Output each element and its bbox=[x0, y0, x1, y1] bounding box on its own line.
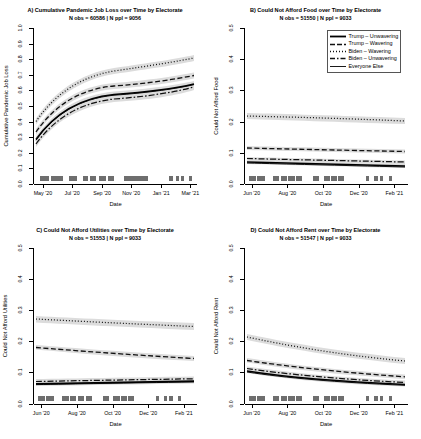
x-tick-label: Jul '20 bbox=[64, 190, 79, 196]
y-tick-mark bbox=[240, 248, 244, 249]
rug-mark bbox=[296, 396, 302, 401]
x-tick-mark bbox=[72, 185, 73, 188]
panel-c-y-tick-labels: 0.00.10.20.30.40.5 bbox=[0, 220, 34, 439]
x-tick-label: Oct '20 bbox=[104, 410, 121, 416]
figure-panel-grid: A) Cumulative Pandemic Job Loss over Tim… bbox=[0, 0, 421, 439]
rug-mark bbox=[169, 176, 172, 181]
y-tick-mark bbox=[240, 310, 244, 311]
band-d-biden-wavering bbox=[247, 334, 405, 364]
rug-mark bbox=[324, 176, 330, 181]
x-tick-label: Jun '20 bbox=[243, 410, 260, 416]
y-tick-label: 0.1 bbox=[12, 369, 28, 375]
legend-item-label: Biden – Wavering bbox=[349, 48, 391, 55]
panel-a-x-axis-line bbox=[34, 184, 197, 185]
rug-mark bbox=[374, 176, 378, 181]
x-tick-mark bbox=[323, 185, 324, 188]
legend-item-label: Trump – Unwavering bbox=[349, 33, 399, 40]
y-tick-label: 0.1 bbox=[223, 150, 239, 156]
rug-mark bbox=[90, 176, 96, 181]
y-tick-label: 0.3 bbox=[223, 87, 239, 93]
panel-a-x-axis-title: Date bbox=[34, 201, 197, 207]
y-tick-mark bbox=[240, 404, 244, 405]
y-tick-mark bbox=[29, 248, 33, 249]
y-tick-mark bbox=[29, 279, 33, 280]
rug-mark bbox=[46, 396, 54, 401]
y-tick-label: 0.5 bbox=[12, 103, 28, 109]
y-tick-mark bbox=[240, 59, 244, 60]
rug-mark bbox=[164, 396, 168, 401]
x-tick-mark bbox=[161, 185, 162, 188]
panel-a-y-tick-labels: 0.00.10.20.30.40.50.60.70.80.91.0 bbox=[0, 0, 34, 219]
x-tick-mark bbox=[323, 405, 324, 408]
rug-mark bbox=[389, 396, 392, 401]
y-tick-mark bbox=[29, 341, 33, 342]
x-tick-label: Aug '20 bbox=[68, 410, 86, 416]
x-tick-label: Feb '21 bbox=[386, 410, 404, 416]
y-tick-label: 0.3 bbox=[12, 134, 28, 140]
x-tick-mark bbox=[359, 405, 360, 408]
y-tick-label: 0.2 bbox=[12, 150, 28, 156]
x-tick-label: Oct '20 bbox=[315, 190, 332, 196]
y-tick-mark bbox=[240, 122, 244, 123]
rug-mark bbox=[121, 396, 127, 401]
legend-line-icon bbox=[330, 33, 346, 40]
rug-mark bbox=[38, 396, 45, 401]
rug-mark bbox=[324, 396, 330, 401]
x-tick-label: Jan '21 bbox=[153, 190, 170, 196]
y-tick-mark bbox=[29, 28, 33, 29]
legend-line-icon bbox=[330, 63, 346, 70]
rug-mark bbox=[331, 396, 337, 401]
legend-item: Biden – Wavering bbox=[330, 48, 398, 55]
panel-b-plot-area: Trump – UnwaveringTrump – WaveringBiden … bbox=[245, 28, 407, 183]
x-tick-mark bbox=[43, 185, 44, 188]
rug-mark bbox=[130, 176, 136, 181]
rug-mark bbox=[366, 176, 369, 181]
y-tick-label: 0.0 bbox=[223, 181, 239, 187]
panel-a: A) Cumulative Pandemic Job Loss over Tim… bbox=[0, 0, 210, 219]
x-tick-label: Mar '21 bbox=[182, 190, 200, 196]
x-tick-mark bbox=[394, 405, 395, 408]
rug-mark bbox=[273, 396, 279, 401]
rug-mark bbox=[273, 176, 279, 181]
y-tick-label: 0.9 bbox=[12, 41, 28, 47]
panel-d-plot-area bbox=[245, 248, 407, 403]
y-tick-label: 0.2 bbox=[223, 338, 239, 344]
legend-item: Biden – Unwavering bbox=[330, 55, 398, 62]
y-tick-label: 0.5 bbox=[223, 25, 239, 31]
y-tick-mark bbox=[29, 90, 33, 91]
rug-mark bbox=[257, 176, 265, 181]
rug-mark bbox=[62, 396, 68, 401]
x-tick-label: Jun '20 bbox=[33, 410, 50, 416]
legend-line-icon bbox=[330, 41, 346, 48]
x-tick-label: Dec '20 bbox=[350, 410, 368, 416]
legend-box: Trump – UnwaveringTrump – WaveringBiden … bbox=[327, 30, 401, 73]
y-tick-mark bbox=[240, 372, 244, 373]
y-tick-mark bbox=[240, 184, 244, 185]
x-tick-mark bbox=[184, 405, 185, 408]
x-tick-label: May '20 bbox=[34, 190, 52, 196]
rug-mark bbox=[380, 396, 383, 401]
y-tick-label: 0.3 bbox=[12, 307, 28, 313]
panel-c: C) Could Not Afford Utilities over Time … bbox=[0, 220, 210, 439]
y-tick-mark bbox=[29, 184, 33, 185]
rug-mark bbox=[83, 176, 89, 181]
x-tick-label: Oct '20 bbox=[315, 410, 332, 416]
panel-c-plot-area bbox=[34, 248, 196, 403]
band-c-biden-wavering bbox=[36, 316, 194, 330]
x-tick-mark bbox=[252, 185, 253, 188]
x-tick-label: Nov '20 bbox=[122, 190, 140, 196]
y-tick-mark bbox=[29, 153, 33, 154]
rug-mark bbox=[108, 176, 114, 181]
x-tick-mark bbox=[287, 185, 288, 188]
rug-mark bbox=[281, 176, 287, 181]
x-tick-mark bbox=[287, 405, 288, 408]
rug-mark bbox=[281, 396, 287, 401]
rug-mark bbox=[366, 396, 369, 401]
rug-mark bbox=[313, 176, 319, 181]
y-tick-label: 0.8 bbox=[12, 56, 28, 62]
y-tick-label: 1.0 bbox=[12, 25, 28, 31]
y-tick-mark bbox=[240, 90, 244, 91]
panel-c-svg bbox=[34, 248, 196, 403]
y-tick-label: 0.4 bbox=[223, 56, 239, 62]
rug-mark bbox=[70, 396, 76, 401]
